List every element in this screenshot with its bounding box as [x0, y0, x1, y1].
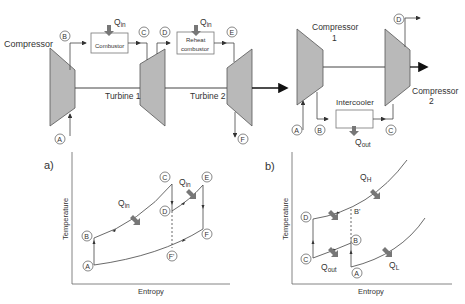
state-b: B: [351, 235, 361, 245]
state-f-prime: F': [167, 251, 177, 261]
heat-in-arrow-icon: [186, 189, 196, 199]
state-c: C: [386, 125, 396, 135]
svg-text:Qout: Qout: [321, 262, 337, 273]
reheat-cycle-schematic: Compressor Turbine 1 Turbine 2 Combustor…: [4, 17, 286, 144]
svg-text:Qin: Qin: [118, 198, 130, 209]
intercooler-label: Intercooler: [336, 98, 374, 107]
state-a: A: [352, 268, 362, 278]
turbine1-label: Turbine 1: [105, 91, 141, 101]
svg-text:B: B: [84, 233, 89, 240]
intercooled-compressor-schematic: Compressor 1 Compressor 2 Intercooler Qo…: [292, 14, 458, 148]
state-a: A: [55, 134, 65, 144]
compressor2-shape: [385, 29, 410, 106]
svg-text:B: B: [317, 127, 322, 134]
svg-text:QL: QL: [389, 260, 400, 271]
svg-text:F: F: [205, 231, 209, 238]
y-axis-label: Temperature: [281, 198, 290, 240]
state-f: F: [202, 229, 212, 239]
y-axis-label: Temperature: [61, 198, 70, 240]
state-c: C: [160, 172, 170, 182]
panel-label-b: b): [265, 160, 275, 172]
state-f: F: [238, 134, 248, 144]
svg-text:F': F': [169, 253, 175, 260]
state-a: A: [292, 125, 302, 135]
svg-text:C: C: [162, 174, 167, 181]
state-b: B: [315, 125, 325, 135]
svg-text:A: A: [57, 136, 62, 143]
svg-text:A: A: [294, 127, 299, 134]
x-axis-label: Entropy: [138, 287, 164, 296]
state-b: B: [60, 31, 70, 41]
svg-text:1: 1: [332, 33, 337, 43]
turbine1-shape: [140, 49, 165, 126]
svg-text:C: C: [303, 256, 308, 263]
svg-text:QH: QH: [360, 172, 372, 183]
state-d: D: [301, 212, 311, 222]
state-b-prime: B': [354, 207, 361, 216]
reheat-label-2: combustor: [181, 46, 209, 52]
state-d: D: [394, 14, 404, 24]
state-b: B: [82, 231, 92, 241]
state-e: E: [227, 27, 237, 37]
ts-diagram-a: a) Entropy Temperature Qin Qin A B C D E: [44, 152, 230, 296]
compressor1-label: Compressor: [312, 22, 358, 32]
svg-text:D: D: [162, 208, 167, 215]
reheat-label: Reheat: [186, 37, 206, 43]
state-a: A: [83, 261, 93, 271]
compressor-shape: [50, 48, 75, 126]
thermodynamic-cycles-figure: Compressor Turbine 1 Turbine 2 Combustor…: [0, 0, 465, 304]
heat-arrow-icon: [382, 247, 392, 257]
svg-text:Qin: Qin: [114, 17, 126, 28]
state-c: C: [301, 254, 311, 264]
state-d: D: [160, 27, 170, 37]
heat-arrow-icon: [328, 210, 338, 220]
svg-text:Qin: Qin: [200, 17, 212, 28]
state-d: D: [160, 206, 170, 216]
svg-text:B: B: [353, 237, 358, 244]
svg-text:B: B: [62, 33, 67, 40]
intercooler-box: [336, 110, 373, 128]
ts-diagram-b: b) Entropy Temperature B' QH QL Qout A B…: [265, 152, 452, 296]
turbine2-shape: [227, 49, 252, 126]
svg-text:D: D: [303, 214, 308, 221]
svg-text:C: C: [388, 127, 393, 134]
combustor-label: Combustor: [95, 43, 124, 49]
svg-text:C: C: [141, 29, 146, 36]
svg-text:D: D: [162, 29, 167, 36]
compressor-label: Compressor: [4, 39, 53, 49]
compressor2-label: Compressor: [412, 86, 458, 96]
state-c: C: [139, 27, 149, 37]
svg-text:Qin: Qin: [179, 177, 191, 188]
svg-text:D: D: [396, 16, 401, 23]
turbine2-label: Turbine 2: [190, 91, 226, 101]
svg-text:Qout: Qout: [355, 137, 371, 148]
panel-label-a: a): [44, 159, 54, 171]
svg-text:E: E: [230, 29, 235, 36]
svg-text:F: F: [241, 136, 245, 143]
compressor1-shape: [297, 29, 323, 105]
svg-text:E: E: [205, 174, 210, 181]
svg-text:A: A: [85, 263, 90, 270]
svg-text:A: A: [354, 270, 359, 277]
state-e: E: [202, 172, 212, 182]
x-axis-label: Entropy: [358, 287, 384, 296]
svg-text:2: 2: [429, 96, 434, 106]
